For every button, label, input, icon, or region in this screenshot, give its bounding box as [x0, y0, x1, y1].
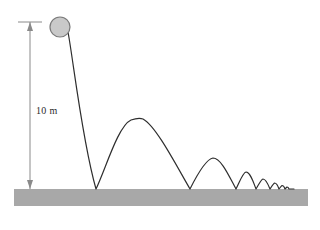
dimension-label: 10 m — [36, 105, 57, 116]
ball-icon — [50, 17, 70, 37]
ground-surface — [14, 189, 308, 206]
